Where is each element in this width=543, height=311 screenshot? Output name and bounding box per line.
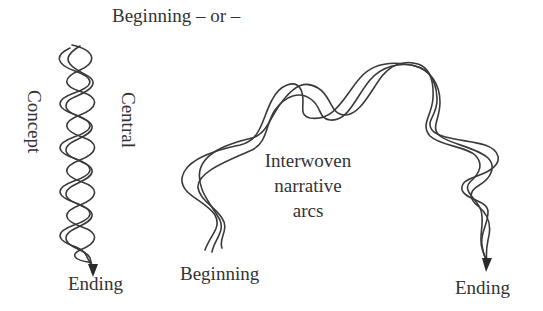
center-label-line-3: arcs	[252, 198, 364, 223]
center-label-line-2: narrative	[252, 173, 364, 198]
center-label-line-1: Interwoven	[252, 148, 364, 173]
left-ending-label: Ending	[68, 274, 123, 293]
right-beginning-label: Beginning	[180, 264, 259, 283]
right-ending-label: Ending	[455, 278, 510, 297]
central-concept-braid	[59, 45, 98, 277]
concept-label: Concept	[25, 90, 44, 153]
arc-arrowhead-icon	[482, 258, 492, 272]
central-label: Central	[119, 92, 138, 148]
top-caption: Beginning – or –	[112, 6, 240, 25]
diagram-canvas: Beginning – or – Central Concept Ending …	[0, 0, 543, 311]
interwoven-arcs-label: Interwoven narrative arcs	[252, 148, 364, 223]
